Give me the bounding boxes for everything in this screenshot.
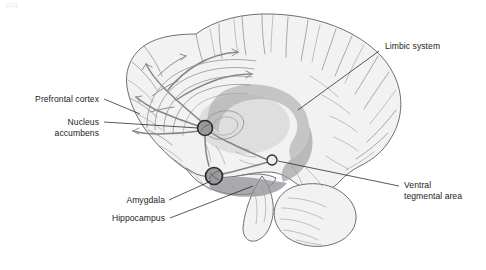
brain-illustration — [127, 14, 401, 247]
corner-mark: 074 — [6, 2, 18, 9]
label-limbic-system: Limbic system — [385, 41, 440, 51]
label-nucleus-accumbens-line1: Nucleus — [68, 117, 99, 127]
leader-amygdala — [169, 181, 211, 200]
label-prefrontal-cortex: Prefrontal cortex — [35, 94, 100, 104]
amygdala-node — [206, 168, 223, 185]
label-ventral-tegmental-area-line2: tegmental area — [404, 191, 462, 201]
leader-hippocampus — [170, 186, 253, 218]
label-amygdala: Amygdala — [126, 195, 165, 205]
brain-diagram-figure: Limbic system and mesolimbic dopamine pa… — [0, 0, 486, 270]
label-ventral-tegmental-area-line1: Ventral — [404, 180, 431, 190]
ventral-tegmental-area-node — [267, 155, 277, 165]
label-nucleus-accumbens-line2: accumbens — [55, 128, 99, 138]
label-hippocampus: Hippocampus — [112, 213, 165, 223]
brain-diagram-svg: Limbic system and mesolimbic dopamine pa… — [0, 0, 486, 270]
nucleus-accumbens-node — [198, 121, 213, 136]
